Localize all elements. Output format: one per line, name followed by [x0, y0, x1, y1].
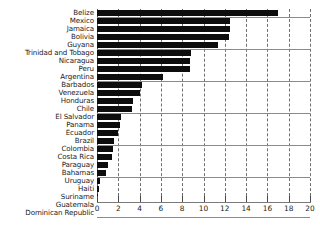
- x-axis-tick: [310, 196, 311, 202]
- bar: [97, 58, 190, 64]
- category-axis-labels: BelizeMexicoJamaicaBoliviaGuyanaTrinidad…: [0, 9, 94, 201]
- bar-row: [97, 97, 310, 105]
- bar-row: [97, 137, 310, 145]
- bar: [97, 186, 99, 192]
- x-axis-tick-label: 10: [199, 204, 208, 214]
- bar-row: [97, 121, 310, 129]
- bar-series: [97, 9, 310, 201]
- bar: [97, 162, 108, 168]
- bar-row: [97, 145, 310, 153]
- bar-row: [97, 185, 310, 193]
- plot-area: [97, 9, 310, 201]
- bar: [97, 130, 118, 136]
- x-axis-tick: [225, 196, 226, 202]
- x-axis-tick-label: 6: [159, 204, 164, 214]
- x-axis-tick-label: 16: [263, 204, 272, 214]
- bar-row: [97, 33, 310, 41]
- bar-row: [97, 17, 310, 25]
- bar-row: [97, 169, 310, 177]
- x-axis-tick-label: 0: [95, 204, 100, 214]
- bar: [97, 122, 120, 128]
- bar: [97, 178, 100, 184]
- bar-row: [97, 153, 310, 161]
- x-axis-tick-label: 14: [241, 204, 250, 214]
- bar: [97, 154, 112, 160]
- x-axis-tick: [97, 196, 98, 202]
- bar-row: [97, 25, 310, 33]
- bar: [97, 10, 278, 16]
- x-axis-tick: [161, 196, 162, 202]
- row-separator: [97, 217, 310, 218]
- x-axis-ticks: [97, 196, 311, 202]
- bar-row: [97, 105, 310, 113]
- x-axis-tick: [182, 196, 183, 202]
- bar-row: [97, 89, 310, 97]
- bar: [97, 50, 191, 56]
- x-axis-tick: [204, 196, 205, 202]
- x-axis-tick: [267, 196, 268, 202]
- bar-row: [97, 129, 310, 137]
- x-axis-tick: [140, 196, 141, 202]
- bar: [97, 26, 230, 32]
- bar-row: [97, 161, 310, 169]
- bar: [97, 106, 132, 112]
- x-axis-tick-label: 2: [116, 204, 121, 214]
- x-axis-tick-label: 18: [284, 204, 293, 214]
- bar-row: [97, 65, 310, 73]
- x-axis-line: [97, 202, 311, 203]
- x-axis-tick-label: 4: [137, 204, 142, 214]
- bar-row: [97, 73, 310, 81]
- x-axis-tick: [118, 196, 119, 202]
- x-axis-tick-labels: 02468101214161820: [97, 204, 311, 216]
- gridline: [310, 9, 311, 201]
- bar-row: [97, 81, 310, 89]
- bar: [97, 34, 229, 40]
- bar-row: [97, 41, 310, 49]
- bar: [97, 98, 133, 104]
- bar: [97, 114, 121, 120]
- x-axis-tick-label: 12: [220, 204, 229, 214]
- bar: [97, 82, 142, 88]
- bar: [97, 42, 218, 48]
- x-axis-tick-label: 20: [305, 204, 314, 214]
- x-axis-tick-label: 8: [180, 204, 185, 214]
- x-axis-tick: [246, 196, 247, 202]
- bar-row: [97, 113, 310, 121]
- bar: [97, 74, 163, 80]
- bar-row: [97, 49, 310, 57]
- bar: [97, 66, 190, 72]
- bar: [97, 90, 140, 96]
- bar: [97, 138, 114, 144]
- bar-row: [97, 57, 310, 65]
- bar: [97, 170, 106, 176]
- bar-row: [97, 9, 310, 17]
- x-axis-tick: [289, 196, 290, 202]
- bar: [97, 18, 230, 24]
- horizontal-bar-chart: BelizeMexicoJamaicaBoliviaGuyanaTrinidad…: [0, 0, 320, 232]
- category-label: Dominican Republic: [0, 209, 94, 217]
- bar: [97, 146, 113, 152]
- bar-row: [97, 177, 310, 185]
